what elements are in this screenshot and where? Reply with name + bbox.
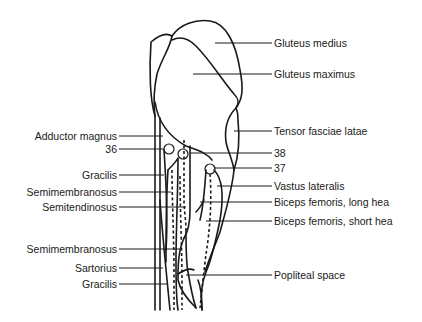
label-sartorius: Sartorius bbox=[75, 262, 117, 274]
label-semimembranosus-lower: Semimembranosus bbox=[27, 243, 117, 255]
label-tensor-fasciae-latae: Tensor fasciae latae bbox=[274, 125, 367, 137]
label-gluteus-maximus: Gluteus maximus bbox=[274, 68, 355, 80]
label-biceps-femoris-short: Biceps femoris, short hea bbox=[274, 215, 392, 227]
label-gracilis-lower: Gracilis bbox=[82, 278, 117, 290]
label-semitendinosus: Semitendinosus bbox=[42, 201, 117, 213]
label-semimembranosus-upper: Semimembranosus bbox=[27, 186, 117, 198]
label-adductor-magnus: Adductor magnus bbox=[35, 130, 117, 142]
labels-layer: Gluteus medius Gluteus maximus Tensor fa… bbox=[0, 0, 422, 322]
anatomy-diagram: Gluteus medius Gluteus maximus Tensor fa… bbox=[0, 0, 422, 322]
label-vastus-lateralis: Vastus lateralis bbox=[274, 180, 344, 192]
label-38: 38 bbox=[274, 147, 286, 159]
label-gluteus-medius: Gluteus medius bbox=[274, 37, 347, 49]
label-37: 37 bbox=[274, 162, 286, 174]
label-popliteal-space: Popliteal space bbox=[274, 269, 345, 281]
label-gracilis-upper: Gracilis bbox=[82, 169, 117, 181]
label-biceps-femoris-long: Biceps femoris, long hea bbox=[274, 196, 389, 208]
label-36: 36 bbox=[105, 143, 117, 155]
